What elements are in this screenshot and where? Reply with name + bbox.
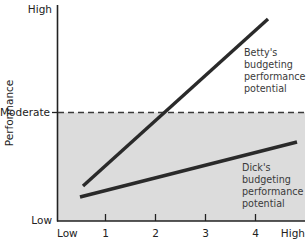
annotation-betty-line1: Betty's — [244, 47, 277, 58]
x-tick-label-low: Low — [57, 227, 78, 239]
annotation-betty-line3: performance — [244, 71, 306, 82]
x-tick-label-high: High — [281, 227, 305, 239]
annotation-betty-line4: potential — [244, 83, 287, 94]
y-tick-label-low: Low — [31, 214, 52, 226]
annotation-betty-line2: budgeting — [244, 59, 293, 70]
x-tick-label-1: 1 — [102, 227, 109, 239]
y-tick-label-high: High — [28, 3, 52, 15]
annotation-dick-line1: Dick's — [242, 162, 271, 173]
x-tick-label-2: 2 — [152, 227, 159, 239]
y-axis-title: Performance — [3, 80, 15, 147]
annotation-dick-line4: potential — [242, 198, 285, 209]
annotation-dick-line3: performance — [242, 186, 304, 197]
performance-potential-chart: High Moderate Low Low 1 2 3 4 High Perfo… — [0, 0, 308, 242]
x-tick-label-4: 4 — [252, 227, 259, 239]
annotation-dick-line2: budgeting — [242, 174, 291, 185]
x-tick-label-3: 3 — [202, 227, 209, 239]
chart-figure: High Moderate Low Low 1 2 3 4 High Perfo… — [0, 0, 308, 242]
